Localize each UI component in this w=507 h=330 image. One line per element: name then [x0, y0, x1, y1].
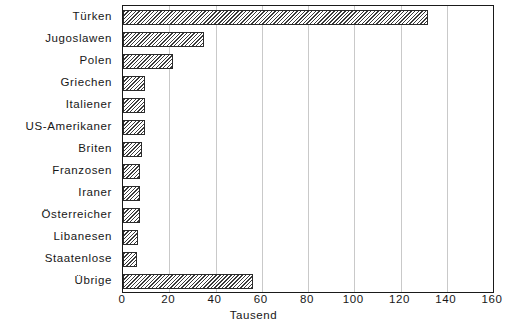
category-label: Polen: [0, 54, 112, 66]
bar: [123, 32, 204, 47]
x-tick-label: 160: [482, 293, 503, 306]
bar: [123, 98, 145, 113]
x-axis-title: Tausend: [0, 309, 507, 321]
x-tick-label: 0: [119, 293, 126, 306]
category-label: Iraner: [0, 186, 112, 198]
bar: [123, 230, 138, 245]
x-tick-label: 80: [300, 293, 314, 306]
gridline: [308, 6, 309, 292]
category-label: Italiener: [0, 98, 112, 110]
bar-chart: TürkenJugoslawenPolenGriechenItalienerUS…: [0, 0, 507, 330]
category-label: Österreicher: [0, 208, 112, 220]
category-label: US-Amerikaner: [0, 120, 112, 132]
bar: [123, 186, 140, 201]
x-tick-label: 100: [343, 293, 364, 306]
category-label: Übrige: [0, 274, 112, 286]
category-label: Griechen: [0, 76, 112, 88]
bar: [123, 120, 145, 135]
bar: [123, 10, 428, 25]
x-tick-label: 60: [254, 293, 268, 306]
x-axis-tick-labels: 020406080100120140160: [0, 293, 507, 309]
plot-area: [122, 5, 494, 293]
category-label: Staatenlose: [0, 252, 112, 264]
bar: [123, 54, 173, 69]
category-label: Briten: [0, 142, 112, 154]
category-label: Türken: [0, 10, 112, 22]
bar: [123, 274, 253, 289]
category-label: Jugoslawen: [0, 32, 112, 44]
bar: [123, 164, 140, 179]
x-tick-label: 40: [208, 293, 222, 306]
bar: [123, 252, 137, 267]
gridline: [447, 6, 448, 292]
category-label: Franzosen: [0, 164, 112, 176]
category-label-column: TürkenJugoslawenPolenGriechenItalienerUS…: [0, 5, 117, 291]
bar: [123, 208, 140, 223]
x-tick-label: 140: [435, 293, 456, 306]
gridline: [216, 6, 217, 292]
bar: [123, 76, 145, 91]
gridline: [169, 6, 170, 292]
x-tick-label: 120: [389, 293, 410, 306]
x-tick-label: 20: [161, 293, 175, 306]
bar: [123, 142, 142, 157]
gridline: [401, 6, 402, 292]
gridline: [262, 6, 263, 292]
gridline: [354, 6, 355, 292]
category-label: Libanesen: [0, 230, 112, 242]
